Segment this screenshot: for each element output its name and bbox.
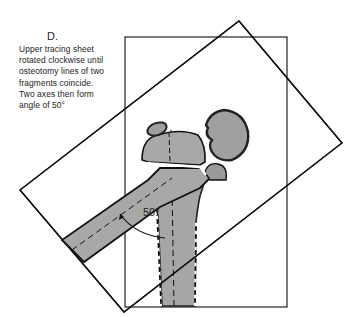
angle-label: 50° xyxy=(143,206,160,218)
diagram-canvas xyxy=(0,0,361,317)
